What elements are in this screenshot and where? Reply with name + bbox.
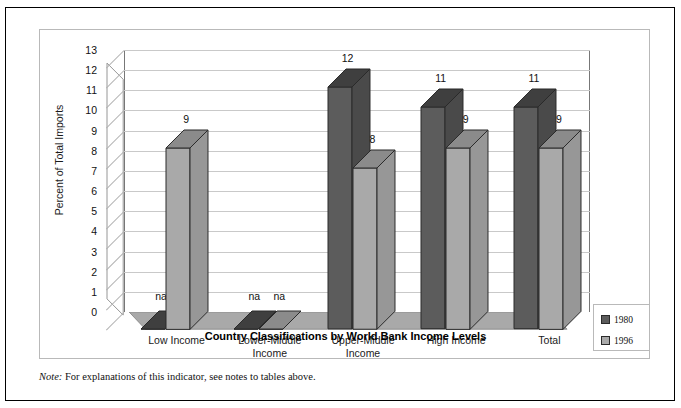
- x-axis-title: Country Classifications by World Bank In…: [40, 330, 651, 342]
- x-category-label-line: Income: [311, 347, 415, 360]
- legend-item-1996: 1996: [601, 332, 649, 349]
- footnote-note-word: Note:: [39, 371, 62, 382]
- y-tick: 2: [124, 272, 125, 273]
- y-tick: 5: [124, 211, 125, 212]
- y-tick-label: 4: [83, 226, 97, 237]
- y-tick-label: 11: [83, 85, 97, 96]
- y-tick-label: 13: [83, 45, 97, 56]
- value-label-1996: 8: [356, 133, 390, 145]
- legend-label-1996: 1996: [614, 336, 633, 346]
- value-label-1980: 12: [331, 52, 365, 64]
- y-tick-label: 6: [83, 186, 97, 197]
- y-tick: 8: [124, 151, 125, 152]
- bar-solid: [352, 149, 396, 334]
- y-tick: 9: [124, 131, 125, 132]
- legend-label-1980: 1980: [614, 315, 633, 325]
- footnote-text: For explanations of this indicator, see …: [62, 371, 315, 382]
- y-tick: 11: [124, 90, 125, 91]
- y-tick-label: 10: [83, 105, 97, 116]
- y-tick: 6: [124, 191, 125, 192]
- y-tick: 13: [124, 50, 125, 51]
- y-tick-label: 3: [83, 247, 97, 258]
- y-tick: 12: [124, 70, 125, 71]
- value-label-1996: 9: [449, 113, 483, 125]
- y-tick: 3: [124, 252, 125, 253]
- y-tick-label: 9: [83, 126, 97, 137]
- y-tick: 4: [124, 231, 125, 232]
- gridline: [124, 50, 590, 51]
- y-tick-label: 1: [83, 287, 97, 298]
- page-frame: Percent of Total Imports 012345678910111…: [5, 7, 675, 401]
- legend-item-1980: 1980: [601, 311, 649, 328]
- y-tick-label: 8: [83, 146, 97, 157]
- y-tick: 0: [124, 312, 125, 313]
- y-tick: 7: [124, 171, 125, 172]
- y-tick: 10: [124, 110, 125, 111]
- y-tick-label: 2: [83, 267, 97, 278]
- plot-area: 012345678910111213 na9nana128119119: [124, 50, 590, 312]
- value-label-1996: 9: [169, 113, 203, 125]
- legend-swatch-1980: [601, 315, 610, 324]
- value-label-1980: 11: [424, 72, 458, 84]
- footnote: Note: For explanations of this indicator…: [39, 371, 316, 382]
- y-tick-label: 0: [83, 307, 97, 318]
- bar-solid: [538, 129, 582, 334]
- bar-solid: [165, 129, 209, 334]
- y-tick-label: 12: [83, 65, 97, 76]
- bar-solid: [445, 129, 489, 334]
- y-axis-title: Percent of Total Imports: [53, 75, 65, 245]
- chart-legend: 1980 1996: [593, 304, 650, 351]
- y-tick: 1: [124, 292, 125, 293]
- value-label-1996: 9: [542, 113, 576, 125]
- chart-figure: Percent of Total Imports 012345678910111…: [39, 29, 650, 359]
- y-tick-label: 5: [83, 206, 97, 217]
- na-label-1996: na: [262, 290, 296, 302]
- y-tick-label: 7: [83, 166, 97, 177]
- value-label-1980: 11: [517, 72, 551, 84]
- x-category-label-line: Income: [218, 347, 322, 360]
- legend-swatch-1996: [601, 336, 610, 345]
